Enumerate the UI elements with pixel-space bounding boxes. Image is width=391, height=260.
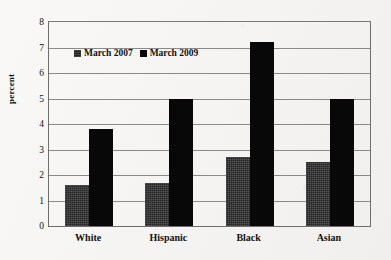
bar-black-march-2007 [226,157,250,226]
y-tick-label: 0 [39,221,44,231]
y-axis-title: percent [6,74,16,104]
x-label-black: Black [236,232,260,243]
legend-entry-march-2009: March 2009 [140,48,199,58]
y-tick-label: 4 [39,119,44,129]
y-tick-label: 3 [39,145,44,155]
legend-swatch-march-2007 [74,50,81,57]
bar-group [210,22,290,226]
bar-hispanic-march-2009 [169,99,193,227]
x-label-asian: Asian [317,232,341,243]
bar-asian-march-2007 [306,162,330,226]
bar-white-march-2009 [89,129,113,226]
bar-hispanic-march-2007 [145,183,169,226]
x-axis-category-labels: WhiteHispanicBlackAsian [48,232,371,254]
y-tick-label: 1 [39,196,44,206]
bar-white-march-2007 [65,185,89,226]
legend-entry-march-2007: March 2007 [74,48,133,58]
chart-legend: March 2007 March 2009 [74,48,198,58]
bar-chart-figure: percent 012345678 WhiteHispanicBlackAsia… [0,0,391,260]
x-label-white: White [75,232,101,243]
bar-asian-march-2009 [330,99,354,227]
bar-black-march-2009 [250,42,274,226]
y-tick-label: 7 [39,43,44,53]
legend-label-march-2009: March 2009 [150,48,199,58]
y-tick-label: 8 [39,17,44,27]
y-tick-label: 5 [39,94,44,104]
y-tick-label: 2 [39,170,44,180]
legend-swatch-march-2009 [140,50,147,57]
legend-label-march-2007: March 2007 [84,48,133,58]
x-label-hispanic: Hispanic [149,232,187,243]
bar-group [290,22,370,226]
y-tick-label: 6 [39,68,44,78]
